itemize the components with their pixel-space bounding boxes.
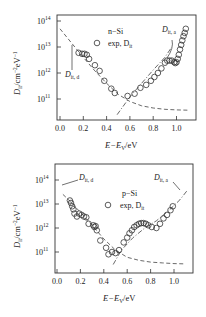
data-point-circle-icon (132, 91, 138, 97)
x-tick-label: 0.0 (52, 277, 62, 286)
chart-p-si: 1011101210131014 0.00.20.40.60.81.0 p−Si… (0, 158, 206, 317)
data-point-circle-icon (121, 240, 127, 246)
legend-series-label: exp, Dit (108, 39, 133, 49)
svg-text:Dit, d: Dit, d (64, 70, 80, 80)
y-tick-label: 1012 (37, 67, 51, 78)
legend-circle-icon (94, 40, 100, 46)
figure: 1011101210131014 0.00.20.40.60.81.0 n−Si… (0, 0, 206, 317)
data-point-circle-icon (148, 78, 154, 84)
data-point-circle-icon (138, 85, 144, 91)
y-axis-label: Dit/cm−2eV−1 (12, 204, 23, 249)
y-tick-label: 1013 (37, 41, 51, 52)
data-point-circle-icon (157, 221, 163, 227)
legend-title: p−Si (122, 189, 138, 198)
y-tick-label: 1011 (35, 246, 49, 257)
annotation-dit-d: Dit, d (62, 173, 94, 185)
annotation-dit-a: Dit, a (153, 173, 180, 190)
x-tick-label: 0.8 (146, 277, 156, 286)
data-point-circle-icon (143, 82, 149, 88)
data-point-circle-icon (161, 216, 167, 222)
data-point-circle-icon (92, 62, 98, 68)
data-point-circle-icon (76, 50, 82, 56)
acceptor-curve (117, 47, 172, 115)
y-tick-label: 1013 (35, 198, 49, 209)
annotation-dit-a: Dit, a (161, 25, 177, 58)
x-tick-label: 0.4 (99, 277, 109, 286)
plot-frame (55, 164, 193, 273)
x-tick-label: 0.0 (55, 124, 65, 133)
x-axis-label: E−EV/eV (102, 293, 136, 304)
y-axis-label: Dit/cm−2eV−1 (12, 51, 23, 96)
legend-title: n−Si (108, 27, 124, 36)
x-tick-label: 0.4 (102, 124, 112, 133)
x-axis-ticks: 0.00.20.40.60.81.0 (55, 116, 182, 133)
x-tick-label: 1.0 (172, 124, 182, 133)
x-axis-ticks: 0.00.20.40.60.81.0 (52, 269, 179, 286)
chart-n-si: 1011101210131014 0.00.20.40.60.81.0 n−Si… (0, 0, 206, 158)
data-point-circle-icon (103, 245, 109, 251)
data-point-circle-icon (113, 250, 119, 256)
data-markers (76, 26, 189, 99)
y-tick-label: 1014 (37, 15, 51, 26)
legend-series-label: exp, Dit (120, 201, 145, 211)
legend: n−Si exp, Dit (94, 27, 133, 49)
x-axis-label: E−EV/eV (104, 140, 138, 151)
x-tick-label: 0.8 (148, 124, 158, 133)
legend: p−Si exp, Dit (105, 189, 145, 211)
x-tick-label: 0.6 (122, 277, 132, 286)
y-tick-label: 1012 (35, 222, 49, 233)
data-point-circle-icon (159, 66, 165, 72)
legend-circle-icon (105, 202, 111, 208)
y-tick-label: 1011 (37, 93, 51, 104)
data-point-circle-icon (125, 93, 131, 99)
svg-text:Dit, a: Dit, a (153, 173, 169, 183)
x-tick-label: 0.2 (78, 124, 88, 133)
y-tick-label: 1014 (35, 174, 49, 185)
svg-text:Dit, a: Dit, a (161, 25, 177, 35)
data-point-circle-icon (98, 238, 104, 244)
x-tick-label: 0.2 (75, 277, 85, 286)
x-tick-label: 1.0 (169, 277, 179, 286)
x-tick-label: 0.6 (125, 124, 135, 133)
data-point-circle-icon (124, 235, 130, 241)
data-point-circle-icon (97, 68, 103, 74)
svg-text:Dit, d: Dit, d (78, 173, 94, 183)
